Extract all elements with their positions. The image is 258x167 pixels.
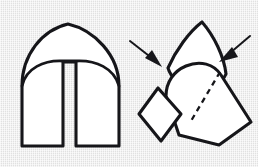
figure-root: Folded shape decomposition diagram Line … — [0, 0, 258, 167]
line-drawing-canvas: Folded shape decomposition diagram Line … — [0, 0, 258, 167]
right-arrow-icon — [219, 36, 250, 62]
left-arch-figure — [22, 24, 119, 146]
right-exploded-figure — [139, 22, 251, 145]
left-arrow-icon — [130, 41, 162, 67]
left-arrow-head — [145, 50, 162, 67]
